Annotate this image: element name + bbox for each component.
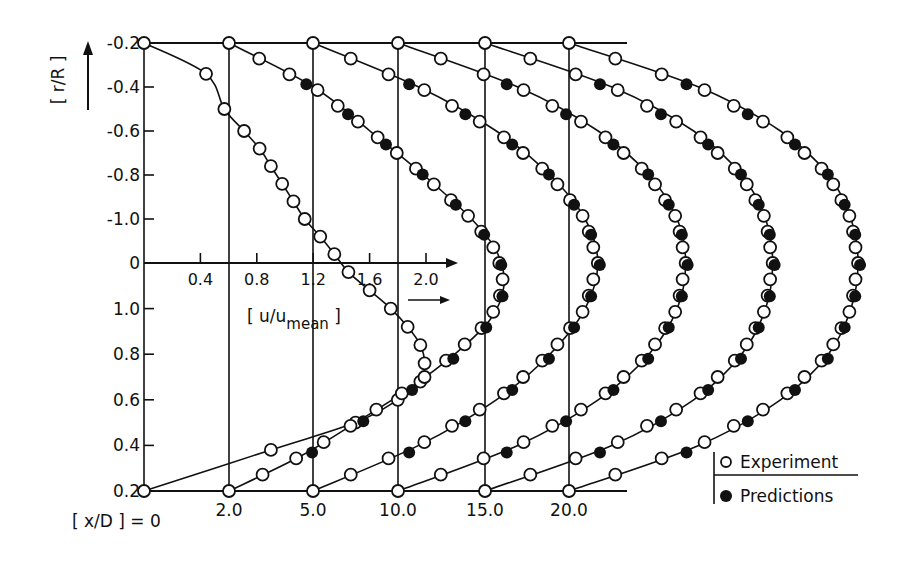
- y-tick-label: 0.6: [113, 390, 140, 410]
- prediction-marker: [642, 353, 654, 365]
- experiment-marker: [370, 404, 382, 416]
- prediction-marker: [501, 446, 513, 458]
- experiment-marker: [418, 436, 430, 448]
- u-axis-label: [ u/umean ]: [247, 306, 341, 333]
- experiment-marker: [479, 485, 491, 497]
- prediction-marker: [506, 384, 518, 396]
- experiment-marker: [649, 178, 661, 190]
- prediction-marker: [822, 353, 834, 365]
- experiment-marker: [459, 338, 471, 350]
- prediction-marker: [681, 78, 693, 90]
- experiment-marker: [618, 147, 630, 159]
- prediction-marker: [403, 446, 415, 458]
- prediction-marker: [501, 78, 513, 90]
- prediction-marker: [607, 138, 619, 150]
- prediction-marker: [676, 229, 688, 241]
- experiment-marker: [276, 178, 288, 190]
- experiment-marker: [764, 273, 776, 285]
- prediction-marker: [417, 169, 429, 181]
- experiment-marker: [850, 241, 862, 253]
- prediction-marker: [753, 321, 765, 333]
- experiment-marker: [257, 469, 269, 481]
- experiment-marker: [435, 53, 447, 65]
- experiment-marker: [728, 100, 740, 112]
- experiment-marker: [827, 338, 839, 350]
- prediction-marker: [406, 384, 418, 396]
- y-tick-label: -0.4: [107, 77, 140, 97]
- experiment-marker: [677, 273, 689, 285]
- prediction-marker: [839, 199, 851, 211]
- prediction-marker: [769, 259, 781, 271]
- experiment-marker: [618, 371, 630, 383]
- prediction-marker: [568, 321, 580, 333]
- prediction-marker: [496, 290, 508, 302]
- experiment-marker: [524, 53, 536, 65]
- y-tick-label: -1.0: [107, 209, 140, 229]
- experiment-marker: [254, 143, 266, 155]
- experiment-marker: [587, 241, 599, 253]
- experiment-marker: [419, 371, 431, 383]
- experiment-marker: [352, 116, 364, 128]
- experiment-marker: [670, 404, 682, 416]
- experiment-marker: [391, 147, 403, 159]
- station-label: 15.0: [466, 500, 504, 520]
- experiment-marker: [669, 306, 681, 318]
- y-tick-label: -0.6: [107, 121, 140, 141]
- u-axis-arrow-head: [446, 258, 458, 268]
- experiment-marker: [712, 371, 724, 383]
- experiment-marker: [712, 147, 724, 159]
- experiment-marker: [612, 436, 624, 448]
- y-axis-label: [ r/R ]: [48, 56, 68, 105]
- experiment-marker: [383, 68, 395, 80]
- experiment-marker: [570, 68, 582, 80]
- experiment-marker: [612, 84, 624, 96]
- experiment-marker: [728, 420, 740, 432]
- experiment-marker: [396, 387, 408, 399]
- u-tick-label: 0.8: [244, 270, 269, 289]
- prediction-marker: [380, 138, 392, 150]
- experiment-marker: [200, 68, 212, 80]
- legend-experiment-label: Experiment: [740, 452, 839, 472]
- station-label: 5.0: [299, 500, 326, 520]
- prediction-marker: [594, 259, 606, 271]
- experiment-marker: [517, 371, 529, 383]
- prediction-marker: [735, 169, 747, 181]
- experiment-marker: [332, 100, 344, 112]
- prediction-marker: [568, 199, 580, 211]
- prediction-marker: [753, 199, 765, 211]
- prediction-marker: [789, 384, 801, 396]
- prediction-marker: [506, 138, 518, 150]
- prediction-marker: [702, 138, 714, 150]
- experiment-marker: [474, 116, 486, 128]
- experiment-marker: [649, 338, 661, 350]
- experiment-marker: [497, 273, 509, 285]
- prediction-marker: [849, 229, 861, 241]
- prediction-marker: [822, 169, 834, 181]
- profile-markers: [138, 37, 866, 497]
- experiment-marker: [641, 420, 653, 432]
- experiment-marker: [462, 210, 474, 222]
- station-label: 10.0: [379, 500, 417, 520]
- y-tick-label: 0: [129, 253, 140, 273]
- experiment-marker: [446, 420, 458, 432]
- prediction-marker: [849, 290, 861, 302]
- experiment-marker: [290, 452, 302, 464]
- prediction-marker: [854, 259, 866, 271]
- experiment-marker: [435, 469, 447, 481]
- prediction-marker: [676, 290, 688, 302]
- legend: Experiment Predictions: [714, 452, 858, 506]
- experiment-marker: [299, 213, 311, 225]
- u-tick-label: 1.6: [357, 270, 382, 289]
- experiment-marker: [850, 273, 862, 285]
- prediction-marker: [300, 78, 312, 90]
- experiment-marker: [383, 452, 395, 464]
- experiment-marker: [478, 452, 490, 464]
- experiment-marker: [314, 231, 326, 243]
- prediction-marker: [480, 321, 492, 333]
- experiment-marker: [741, 338, 753, 350]
- experiment-marker: [758, 210, 770, 222]
- y-tick-label: -0.8: [107, 165, 140, 185]
- experiment-marker: [318, 436, 330, 448]
- u-axis-direction-arrow-head: [440, 296, 450, 304]
- experiment-marker: [414, 339, 426, 351]
